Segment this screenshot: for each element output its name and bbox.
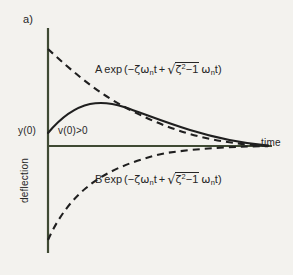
formula-b-radicand-one: 1 <box>192 173 198 185</box>
formula-a-t: t <box>154 63 157 75</box>
panel-label: a) <box>23 13 33 25</box>
curve-b-exp-envelope <box>48 146 268 240</box>
formula-b-exp: Bexp(−ζωnt+√ζ2−1ωnt) <box>95 172 222 187</box>
formula-b-coefficient: B <box>95 173 102 185</box>
x-axis-label: time <box>261 137 281 148</box>
formula-a-close-paren: ) <box>218 63 222 75</box>
formula-b-t: t <box>154 173 157 185</box>
formula-b-radicand: ζ2−1 <box>175 172 200 187</box>
curves-group <box>48 49 270 240</box>
formula-a-function: exp <box>104 63 122 75</box>
damped-response-figure: a) y(0) v(0)>0 time deflection Aexp(−ζωn… <box>0 0 293 275</box>
formula-a-exp: Aexp(−ζωnt+√ζ2−1ωnt) <box>95 62 222 77</box>
formula-a-omega2: ω <box>201 63 210 76</box>
y-axis-label: deflection <box>19 146 30 216</box>
formula-a-plus: + <box>159 63 165 75</box>
plot-canvas <box>0 0 293 275</box>
formula-a-radicand-one: 1 <box>192 63 198 75</box>
formula-a-coefficient: A <box>95 63 102 75</box>
formula-a-radicand: ζ2−1 <box>175 62 200 77</box>
formula-b-omega2: ω <box>201 173 210 186</box>
formula-b-function: exp <box>104 173 122 185</box>
formula-b-plus: + <box>159 173 165 185</box>
initial-velocity-label: v(0)>0 <box>58 125 88 136</box>
formula-b-close-paren: ) <box>218 173 222 185</box>
initial-deflection-label: y(0) <box>18 125 36 136</box>
